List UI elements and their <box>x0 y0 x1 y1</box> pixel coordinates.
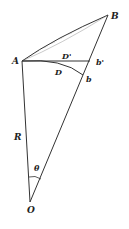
label-B: B <box>110 11 119 21</box>
label-b-prime: b' <box>96 57 104 67</box>
arc-geometry-diagram: A B D' b' D b R θ O <box>0 0 129 229</box>
label-A: A <box>11 56 19 66</box>
theta-arc <box>29 176 41 179</box>
line-OB <box>30 15 108 202</box>
label-D: D <box>54 67 62 77</box>
radius-OA <box>22 61 30 202</box>
label-R: R <box>13 132 22 142</box>
label-D-prime: D' <box>61 51 71 61</box>
label-O: O <box>27 205 35 215</box>
label-theta: θ <box>34 163 40 173</box>
arc-Ab <box>22 61 83 75</box>
label-b: b <box>86 74 92 84</box>
